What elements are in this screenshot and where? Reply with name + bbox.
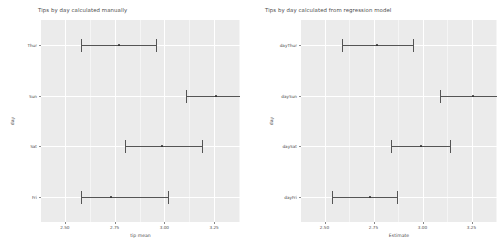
x-tick-mark [115, 222, 116, 224]
gridline-major-vertical [115, 20, 116, 222]
errorbar-cap-low [125, 140, 126, 153]
x-tick-label: 3.00 [418, 225, 427, 230]
data-point [369, 196, 371, 198]
x-tick-label: 2.75 [369, 225, 378, 230]
y-axis-title: day [269, 117, 274, 125]
figure-container: Tips by day calculated manually tip mean… [0, 0, 502, 252]
y-tick-label: daySat [282, 144, 297, 149]
x-tick-mark [214, 222, 215, 224]
errorbar-cap-high [413, 39, 414, 52]
y-tick-label: Sun [29, 93, 37, 98]
gridline-minor-vertical [398, 20, 399, 222]
gridline-minor-vertical [496, 20, 497, 222]
errorbar-line [440, 96, 497, 97]
gridline-minor-vertical [140, 20, 141, 222]
y-tick-label: dayThur [280, 43, 297, 48]
y-tick-mark [299, 96, 301, 97]
gridline-major-vertical [325, 20, 326, 222]
errorbar-line [81, 197, 169, 198]
x-tick-label: 3.00 [160, 225, 169, 230]
errorbar-line [125, 146, 203, 147]
plot-title: Tips by day calculated from regression m… [265, 7, 391, 13]
x-axis-title: Estimate [389, 233, 409, 238]
data-point [420, 145, 422, 147]
x-tick-mark [374, 222, 375, 224]
gridline-major-vertical [472, 20, 473, 222]
plot-area [41, 20, 240, 222]
gridline-minor-vertical [447, 20, 448, 222]
gridline-minor-vertical [239, 20, 240, 222]
x-tick-mark [472, 222, 473, 224]
x-tick-label: 3.25 [467, 225, 476, 230]
facet-panel-manual: Tips by day calculated manually tip mean… [0, 0, 251, 252]
data-point [215, 95, 217, 97]
plot-area [301, 20, 497, 222]
y-tick-label: Thur [27, 43, 37, 48]
errorbar-cap-low [440, 90, 441, 103]
y-tick-label: dayFri [284, 194, 297, 199]
y-tick-mark [39, 197, 41, 198]
plot-title: Tips by day calculated manually [38, 7, 127, 13]
errorbar-cap-high [202, 140, 203, 153]
facet-panel-regression: Tips by day calculated from regression m… [251, 0, 502, 252]
y-tick-mark [39, 146, 41, 147]
x-tick-label: 2.50 [320, 225, 329, 230]
y-tick-label: Sat [30, 144, 37, 149]
x-tick-label: 3.25 [209, 225, 218, 230]
data-point [118, 44, 120, 46]
y-tick-label: Fri [32, 194, 37, 199]
errorbar-cap-low [81, 39, 82, 52]
x-tick-label: 2.50 [60, 225, 69, 230]
x-tick-mark [325, 222, 326, 224]
x-tick-label: 2.75 [110, 225, 119, 230]
gridline-major-vertical [374, 20, 375, 222]
errorbar-cap-low [81, 191, 82, 204]
y-tick-mark [299, 197, 301, 198]
errorbar-cap-high [168, 191, 169, 204]
gridline-major-vertical [423, 20, 424, 222]
gridline-major-horizontal [301, 197, 497, 198]
errorbar-cap-low [391, 140, 392, 153]
y-tick-mark [39, 96, 41, 97]
errorbar-cap-low [186, 90, 187, 103]
gridline-major-vertical [65, 20, 66, 222]
gridline-minor-vertical [90, 20, 91, 222]
errorbar-cap-low [342, 39, 343, 52]
y-axis-title: day [10, 117, 15, 125]
x-axis-title: tip mean [130, 233, 150, 238]
y-tick-mark [39, 45, 41, 46]
x-tick-mark [65, 222, 66, 224]
gridline-major-vertical [164, 20, 165, 222]
gridline-minor-vertical [349, 20, 350, 222]
y-tick-mark [299, 146, 301, 147]
y-tick-label: daySun [281, 93, 297, 98]
x-tick-mark [423, 222, 424, 224]
errorbar-line [186, 96, 240, 97]
errorbar-cap-high [397, 191, 398, 204]
x-tick-mark [164, 222, 165, 224]
errorbar-line [332, 197, 397, 198]
gridline-major-vertical [214, 20, 215, 222]
gridline-minor-vertical [189, 20, 190, 222]
data-point [110, 196, 112, 198]
errorbar-cap-low [332, 191, 333, 204]
y-tick-mark [299, 45, 301, 46]
errorbar-cap-high [156, 39, 157, 52]
errorbar-cap-high [450, 140, 451, 153]
